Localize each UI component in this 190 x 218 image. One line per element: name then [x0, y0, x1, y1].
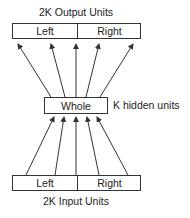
input-to-hidden-arrow	[55, 117, 64, 175]
hidden-to-output-arrow	[51, 44, 65, 97]
hidden-to-output-arrow	[100, 44, 133, 97]
hidden-to-output-arrow	[18, 44, 51, 97]
input-to-hidden-arrow	[87, 117, 99, 175]
connection-arrows	[0, 0, 190, 218]
hidden-to-output-arrow	[86, 44, 99, 97]
input-to-hidden-arrow	[26, 117, 54, 175]
input-to-hidden-arrow	[97, 117, 128, 175]
